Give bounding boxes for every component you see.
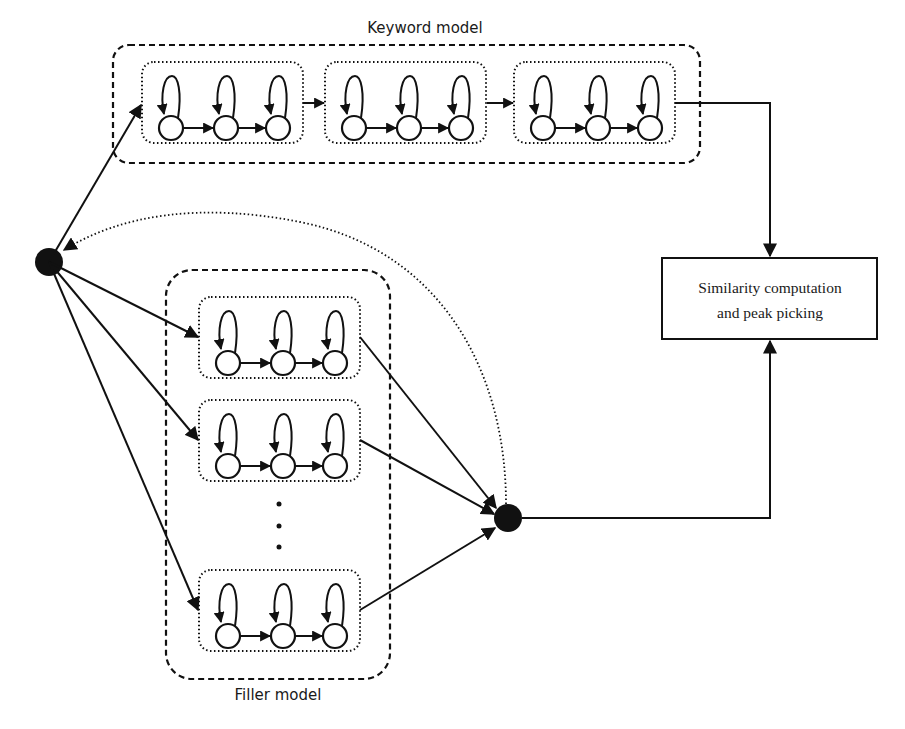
start-to-keyword-edge — [49, 105, 141, 262]
filler-model: Filler model — [166, 270, 390, 704]
filler-model-label: Filler model — [235, 686, 322, 704]
keyword-sub-model-3 — [514, 62, 675, 143]
keyword-model-label: Keyword model — [367, 19, 483, 37]
similarity-computation-box: Similarity computation and peak picking — [662, 258, 877, 339]
filler-1-to-end-edge — [360, 337, 496, 508]
filler-ellipsis — [277, 502, 282, 550]
start-to-filler-2-edge — [49, 262, 198, 440]
filler-n-to-end-edge — [360, 528, 495, 610]
start-to-filler-n-edge — [49, 262, 198, 610]
filler-2-to-end-edge — [360, 440, 494, 514]
keyword-spotting-diagram: Keyword model Similarity computation and… — [0, 0, 905, 729]
keyword-sub-model-1 — [142, 62, 303, 143]
filler-sub-model-n — [199, 570, 360, 651]
filler-sub-model-2 — [199, 400, 360, 481]
similarity-box-line2: and peak picking — [717, 304, 823, 321]
keyword-to-similarity-edge — [675, 103, 770, 256]
similarity-box-line1: Similarity computation — [698, 279, 842, 296]
start-to-filler-1-edge — [49, 262, 198, 337]
end-to-similarity-edge — [522, 341, 770, 518]
filler-sub-model-1 — [199, 297, 360, 378]
keyword-model: Keyword model — [113, 19, 700, 163]
end-node — [494, 504, 522, 532]
keyword-sub-model-2 — [325, 62, 486, 143]
